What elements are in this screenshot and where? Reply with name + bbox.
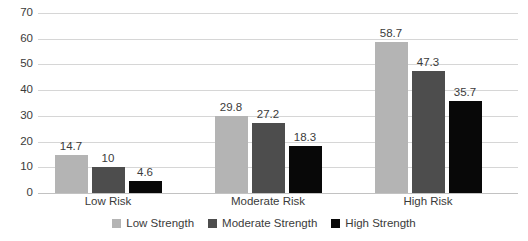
y-axis-tick-label: 40 [3,84,33,96]
bar-value-label: 27.2 [257,109,279,121]
bar-value-label: 14.7 [60,141,82,153]
legend-label: Low Strength [126,218,194,230]
x-axis-category-label: Low Risk [85,196,132,208]
bar-value-label: 58.7 [380,28,402,40]
legend-swatch-icon [112,219,121,228]
y-axis-tick-label: 30 [3,110,33,122]
bar [375,42,408,193]
gridline [38,39,518,40]
y-axis-tick-label: 50 [3,59,33,71]
y-axis-tick-label: 70 [3,7,33,19]
gridline [38,13,518,14]
bar [289,146,322,193]
axis-baseline [38,193,518,194]
y-axis-tick-label: 10 [3,162,33,174]
bar-value-label: 35.7 [454,87,476,99]
bar-chart: 010203040506070 14.7104.629.827.218.358.… [0,0,528,241]
y-axis-tick-label: 0 [3,187,33,199]
bar [449,101,482,193]
y-axis: 010203040506070 [0,13,33,193]
y-axis-tick-label: 60 [3,33,33,45]
legend-item: High Strength [331,218,415,230]
bar [215,116,248,193]
bar-value-label: 29.8 [220,102,242,114]
legend-label: Moderate Strength [222,218,317,230]
chart-legend: Low StrengthModerate StrengthHigh Streng… [0,218,528,230]
bar [412,71,445,193]
gridline [38,64,518,65]
legend-item: Low Strength [112,218,194,230]
legend-swatch-icon [331,219,340,228]
x-axis-category-label: High Risk [403,196,452,208]
bar [55,155,88,193]
bar [92,167,125,193]
legend-swatch-icon [208,219,217,228]
bar-value-label: 10 [102,153,115,165]
bar-value-label: 4.6 [137,167,153,179]
legend-label: High Strength [345,218,415,230]
x-axis-category-label: Moderate Risk [231,196,305,208]
gridline [38,90,518,91]
bar [129,181,162,193]
bar-value-label: 47.3 [417,57,439,69]
bar [252,123,285,193]
legend-item: Moderate Strength [208,218,317,230]
y-axis-tick-label: 20 [3,136,33,148]
plot-area: 14.7104.629.827.218.358.747.335.7 [38,13,518,193]
bar-value-label: 18.3 [294,132,316,144]
